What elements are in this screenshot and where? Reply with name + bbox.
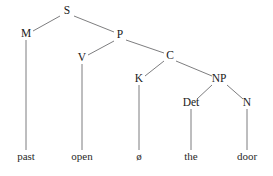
tree-edge-c-np (176, 61, 212, 76)
tree-leaf-past: past (17, 150, 35, 162)
tree-canvas: SMPVCKNPDetN pastopenøthedoor (0, 0, 273, 176)
tree-edge-p-v (88, 41, 114, 55)
tree-node-c: C (166, 49, 174, 61)
tree-node-v: V (78, 51, 87, 63)
tree-edge-s-m (33, 16, 60, 31)
tree-node-np: NP (212, 72, 227, 84)
tree-nodes-group: SMPVCKNPDetN (21, 4, 252, 108)
tree-node-m: M (21, 27, 31, 39)
tree-edge-c-k (145, 61, 164, 76)
tree-leaf-the: the (184, 150, 198, 162)
tree-node-p: P (117, 28, 123, 40)
tree-edge-np-n (227, 85, 243, 99)
tree-node-k: K (135, 72, 144, 84)
tree-edge-s-p (74, 16, 114, 32)
tree-leaf-open: open (71, 150, 93, 162)
tree-leaf-door: door (237, 150, 258, 162)
tree-node-n: N (243, 96, 252, 108)
tree-node-s: S (64, 4, 70, 16)
tree-leaf-zero: ø (136, 150, 142, 162)
syntax-tree-diagram: SMPVCKNPDetN pastopenøthedoor (0, 0, 273, 176)
tree-leaves-group: pastopenøthedoor (17, 150, 257, 162)
tree-node-det: Det (183, 96, 200, 108)
tree-edge-p-c (126, 40, 164, 53)
